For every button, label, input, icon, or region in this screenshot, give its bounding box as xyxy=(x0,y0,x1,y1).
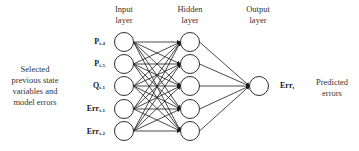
input-node xyxy=(115,122,134,141)
neural-network-diagram xyxy=(0,0,359,151)
input-node xyxy=(115,33,134,52)
output-node xyxy=(250,77,269,96)
hidden-node xyxy=(181,122,200,141)
connection-line xyxy=(200,64,250,86)
connection-line xyxy=(200,42,250,86)
connection-line xyxy=(200,86,250,109)
hidden-node xyxy=(181,33,200,52)
hidden-node xyxy=(181,100,200,119)
connection-line xyxy=(200,86,250,131)
input-node xyxy=(115,100,134,119)
hidden-output-connections xyxy=(200,42,250,131)
input-layer-nodes xyxy=(115,33,134,141)
hidden-node xyxy=(181,77,200,96)
input-node xyxy=(115,77,134,96)
input-node xyxy=(115,55,134,74)
input-hidden-connections xyxy=(134,42,181,131)
hidden-layer-nodes xyxy=(181,33,200,141)
hidden-node xyxy=(181,55,200,74)
output-layer-nodes xyxy=(250,77,269,96)
